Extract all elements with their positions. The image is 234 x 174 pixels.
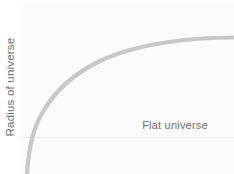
y-axis-label-text: Radius of universe: [4, 38, 16, 137]
flat-universe-curve: [20, 4, 234, 174]
series-annotation-label: Flat universe: [120, 119, 230, 131]
y-axis-label: Radius of universe: [0, 0, 20, 174]
plot-area: Flat universe: [20, 4, 234, 174]
chart-figure: Flat universe Radius of universe: [0, 0, 234, 174]
